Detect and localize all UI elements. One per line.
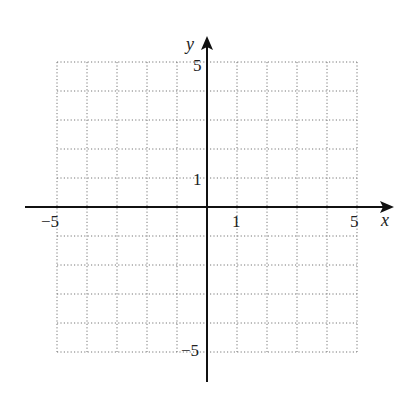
x-tick-label-neg5: −5 [41, 212, 59, 231]
x-axis-label: x [380, 210, 389, 230]
y-tick-label-neg5: −5 [181, 341, 199, 360]
coordinate-plane: x y −5 1 5 5 1 −5 [0, 0, 419, 401]
x-tick-label-1: 1 [232, 212, 241, 231]
x-tick-label-5: 5 [350, 212, 359, 231]
y-tick-label-1: 1 [193, 170, 202, 189]
y-tick-label-5: 5 [193, 56, 202, 75]
y-axis-label: y [184, 34, 194, 54]
